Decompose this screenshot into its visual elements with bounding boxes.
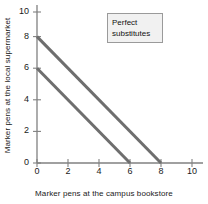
y-axis-label: Marker pens at the local supermarket — [3, 16, 12, 156]
indifference-curve-upper — [37, 37, 161, 163]
y-tick-label-4: 4 — [13, 94, 29, 104]
x-tick-label-0: 0 — [27, 166, 47, 176]
annotation-line-1: Perfect — [112, 17, 162, 28]
x-axis-label: Marker pens at the campus bookstore — [0, 189, 208, 198]
x-tick-label-10: 10 — [182, 166, 202, 176]
chart-figure: 0 2 4 6 8 10 0 2 4 6 8 10 Marker pens at… — [0, 0, 208, 204]
x-tick-label-6: 6 — [120, 166, 140, 176]
annotation-line-2: substitutes — [112, 28, 162, 39]
x-tick-label-2: 2 — [58, 166, 78, 176]
y-tick-label-8: 8 — [13, 31, 29, 41]
y-tick-label-6: 6 — [13, 62, 29, 72]
y-tick-label-2: 2 — [13, 125, 29, 135]
x-tick-label-8: 8 — [151, 166, 171, 176]
perfect-substitutes-annotation: Perfect substitutes — [107, 13, 163, 43]
x-tick-label-4: 4 — [89, 166, 109, 176]
y-axis-label-container: Marker pens at the local supermarket — [0, 0, 14, 170]
